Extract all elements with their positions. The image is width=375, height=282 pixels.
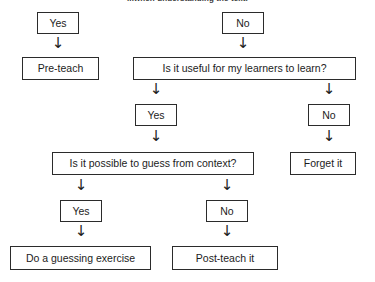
down-arrow-icon: ↓	[149, 82, 163, 97]
node-no-second: No	[308, 104, 350, 126]
down-arrow-icon: ↓	[220, 178, 234, 193]
chart-title: ...when understanding the text.	[0, 0, 375, 3]
node-yes-second: Yes	[135, 104, 177, 126]
node-guess-question: Is it possible to guess from context?	[52, 152, 254, 175]
down-arrow-icon: ↓	[74, 224, 88, 239]
down-arrow-icon: ↓	[322, 129, 336, 144]
node-useful-question: Is it useful for my learners to learn?	[133, 57, 356, 80]
node-forget-it: Forget it	[290, 152, 356, 175]
down-arrow-icon: ↓	[322, 82, 336, 97]
flowchart-diagram: ...when understanding the text. ↓↓↓↓↓↓↓↓…	[0, 0, 375, 282]
node-pre-teach: Pre-teach	[22, 57, 99, 80]
node-yes-third: Yes	[60, 200, 102, 222]
down-arrow-icon: ↓	[236, 36, 250, 51]
down-arrow-icon: ↓	[51, 36, 65, 51]
down-arrow-icon: ↓	[74, 178, 88, 193]
node-no-top-right: No	[222, 12, 264, 34]
node-yes-top-left: Yes	[37, 12, 79, 34]
node-no-third: No	[206, 200, 248, 222]
down-arrow-icon: ↓	[220, 224, 234, 239]
node-post-teach-it: Post-teach it	[172, 246, 278, 270]
down-arrow-icon: ↓	[149, 129, 163, 144]
node-guessing-exercise: Do a guessing exercise	[10, 246, 151, 270]
